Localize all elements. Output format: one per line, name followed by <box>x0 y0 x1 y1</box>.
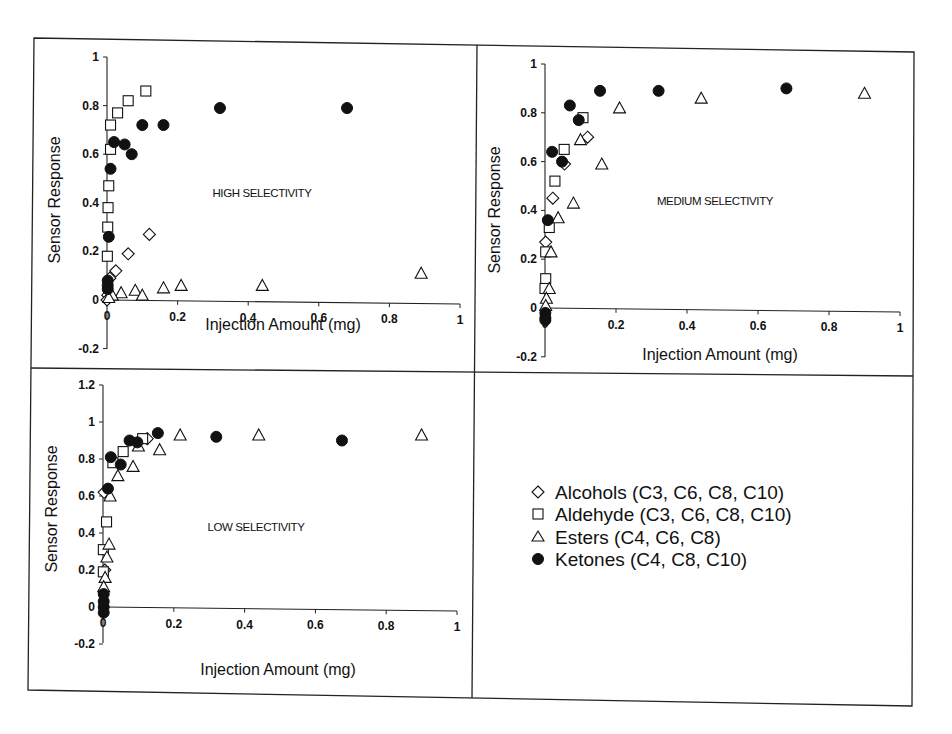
legend-item-ketones: Ketones (C4, C8, C10) <box>533 549 748 570</box>
y-tick-label: -0.2 <box>516 350 537 364</box>
legend-item-aldehyde: Aldehyde (C3, C6, C8, C10) <box>533 504 792 525</box>
y-tick-label: 0 <box>92 293 99 307</box>
data-point <box>98 607 109 618</box>
x-tick-label: 1 <box>897 321 904 335</box>
data-point <box>141 86 151 96</box>
y-tick-label: 0.6 <box>520 155 537 169</box>
data-point <box>102 517 112 527</box>
square-marker-icon <box>533 509 543 519</box>
data-point <box>132 437 143 448</box>
data-point <box>104 181 114 191</box>
x-tick-label: 0.4 <box>236 618 253 632</box>
data-point <box>342 103 353 114</box>
y-axis-label: Sensor Response <box>43 445 60 572</box>
x-axis-label: Injection Amount (mg) <box>200 661 356 678</box>
data-point <box>126 149 137 160</box>
data-point <box>102 483 113 494</box>
x-tick-label: 0.2 <box>169 310 186 324</box>
legend-label-ketones: Ketones (C4, C8, C10) <box>555 549 747 570</box>
x-tick-label: 0.8 <box>381 312 398 326</box>
y-tick-label: 1 <box>92 50 99 64</box>
y-tick-label: 1 <box>88 415 95 429</box>
x-tick-label: 0.8 <box>378 619 395 633</box>
y-tick-label: 0.6 <box>78 489 95 503</box>
y-tick-label: 0.2 <box>520 252 537 266</box>
data-point <box>109 137 120 148</box>
circle-marker-icon <box>533 554 544 565</box>
data-point <box>137 120 148 131</box>
data-point <box>158 120 169 131</box>
data-point <box>115 459 126 470</box>
y-tick-label: 0.4 <box>78 526 95 540</box>
data-point <box>103 203 113 213</box>
x-tick-label: 0.6 <box>307 618 324 632</box>
data-point <box>103 231 114 242</box>
y-tick-label: 0.8 <box>520 106 537 120</box>
y-tick-label: 1 <box>530 57 537 71</box>
data-point <box>102 251 112 261</box>
data-point <box>119 139 130 150</box>
selectivity-annotation: HIGH SELECTIVITY <box>212 187 312 199</box>
legend-label-alcohols: Alcohols (C3, C6, C8, C10) <box>555 482 784 503</box>
y-tick-label: 0.8 <box>78 452 95 466</box>
y-tick-label: -0.2 <box>78 342 99 356</box>
data-point <box>105 163 116 174</box>
data-point <box>781 83 792 94</box>
data-point <box>557 156 568 167</box>
y-tick-label: 0.2 <box>82 244 99 258</box>
y-tick-label: 1.2 <box>78 378 95 392</box>
y-tick-label: 0.6 <box>82 147 99 161</box>
x-tick-label: 1 <box>454 620 461 634</box>
x-tick-label: 1 <box>457 313 464 327</box>
data-point <box>118 447 128 457</box>
legend-item-esters: Esters (C4, C6, C8) <box>532 527 721 548</box>
data-point <box>542 215 553 226</box>
legend-label-aldehyde: Aldehyde (C3, C6, C8, C10) <box>555 504 792 525</box>
y-tick-label: 0.4 <box>520 203 537 217</box>
data-point <box>336 435 347 446</box>
y-tick-label: 0.4 <box>82 196 99 210</box>
data-point <box>123 96 133 106</box>
data-point <box>547 146 558 157</box>
y-tick-label: 0 <box>530 301 537 315</box>
data-point <box>550 176 560 186</box>
y-tick-label: -0.2 <box>74 637 95 651</box>
x-tick-label: 0.8 <box>821 320 838 334</box>
legend-label-esters: Esters (C4, C6, C8) <box>555 527 721 548</box>
data-point <box>214 103 225 114</box>
data-point <box>540 315 551 326</box>
data-point <box>103 222 113 232</box>
data-point <box>595 85 606 96</box>
selectivity-annotation: LOW SELECTIVITY <box>208 521 306 533</box>
data-point <box>211 431 222 442</box>
y-axis-label: Sensor Response <box>46 136 63 263</box>
data-point <box>102 284 113 295</box>
x-tick-label: 0.2 <box>608 318 625 332</box>
data-point <box>573 115 584 126</box>
x-tick-label: 0.2 <box>165 617 182 631</box>
y-axis-label: Sensor Response <box>486 146 503 273</box>
data-point <box>559 144 569 154</box>
x-tick-label: 0.4 <box>679 319 696 333</box>
x-axis-label: Injection Amount (mg) <box>642 346 798 363</box>
x-axis-label: Injection Amount (mg) <box>205 316 361 333</box>
legend-item-alcohols: Alcohols (C3, C6, C8, C10) <box>532 482 784 503</box>
figure: -0.200.20.40.60.8100.20.40.60.81Sensor R… <box>0 0 952 734</box>
selectivity-annotation: MEDIUM SELECTIVITY <box>657 195 774 207</box>
y-tick-label: 0 <box>88 600 95 614</box>
data-point <box>653 85 664 96</box>
data-point <box>152 428 163 439</box>
y-tick-label: 0.2 <box>78 563 95 577</box>
x-tick-label: 0.6 <box>750 319 767 333</box>
y-tick-label: 0.8 <box>82 99 99 113</box>
data-point <box>564 100 575 111</box>
x-tick-label: 0 <box>104 309 111 323</box>
data-point <box>105 452 116 463</box>
data-point <box>113 108 123 118</box>
data-point <box>106 120 116 130</box>
